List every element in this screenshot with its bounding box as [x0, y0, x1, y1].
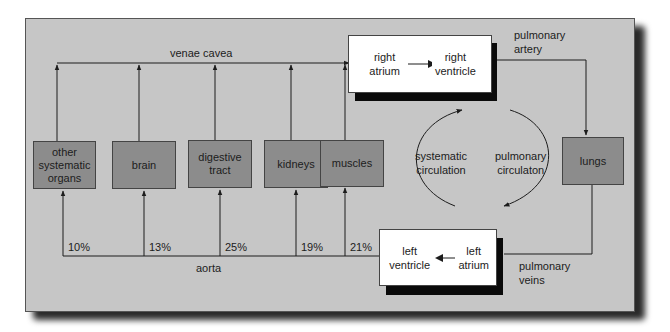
arrow-left-icon [435, 253, 455, 263]
label-pulmonary-artery: pulmonary artery [514, 28, 565, 56]
organ-muscles: muscles [320, 140, 384, 187]
organ-digestive-tract: digestivetract [188, 140, 252, 188]
organ-lungs: lungs [562, 137, 624, 185]
organ-brain: brain [112, 141, 176, 189]
percent-muscles: 21% [350, 241, 372, 253]
organ-kidneys: kidneys [264, 140, 328, 188]
arrow-right-icon [408, 59, 432, 69]
percent-digestive: 25% [225, 241, 247, 253]
percent-kidneys: 19% [301, 241, 323, 253]
percent-brain: 13% [149, 241, 171, 253]
percent-other: 10% [68, 241, 90, 253]
left-ventricle: leftventricle [384, 244, 435, 272]
label-pulmonary-circulation: pulmonary circulaton [495, 149, 546, 177]
label-pulmonary-veins: pulmonary veins [519, 259, 570, 287]
label-venae-cavea: venae cavea [170, 46, 232, 60]
right-heart-box: rightatrium rightventricle [348, 35, 492, 93]
organ-other-systematic-organs: othersystematicorgans [33, 141, 96, 189]
label-aorta: aorta [196, 261, 221, 275]
left-atrium: leftatrium [455, 244, 492, 272]
right-atrium: rightatrium [361, 50, 408, 78]
left-heart-box: leftventricle leftatrium [379, 229, 497, 286]
right-ventricle: rightventricle [432, 50, 479, 78]
label-systematic-circulation: systematic circulation [415, 149, 467, 177]
